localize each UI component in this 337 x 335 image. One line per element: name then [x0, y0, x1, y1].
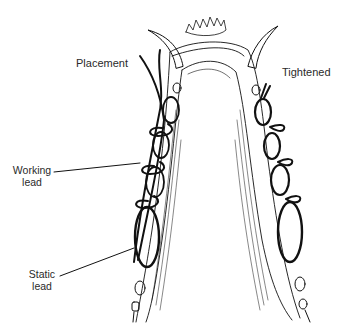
left-teeth	[132, 83, 181, 322]
leader-lines	[54, 163, 140, 276]
label-working-line1: Working	[10, 164, 54, 176]
label-static-line2: lead	[26, 280, 58, 292]
incisors	[186, 17, 226, 36]
label-working-lead: Working lead	[10, 164, 54, 188]
right-teeth	[252, 85, 310, 322]
label-static-lead: Static lead	[26, 268, 58, 292]
label-working-line2: lead	[10, 176, 54, 188]
label-tightened: Tightened	[282, 66, 331, 78]
label-static-line1: Static	[26, 268, 58, 280]
label-placement: Placement	[76, 57, 128, 69]
